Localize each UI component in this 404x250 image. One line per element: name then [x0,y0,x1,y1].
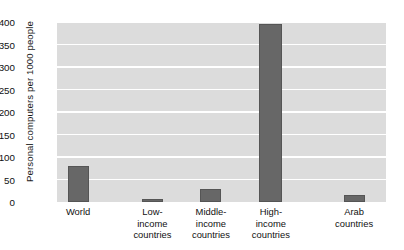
y-tick-label: 350 [0,39,15,50]
bar [142,199,163,202]
bar [344,195,365,202]
y-tick-label: 50 [0,174,15,185]
y-tick-label: 100 [0,152,15,163]
y-tick-label: 250 [0,84,15,95]
bar [200,189,221,203]
y-tick-label: 200 [0,107,15,118]
bar [68,166,89,202]
bar-chart: Personal computers per 1000 people 05010… [0,0,404,250]
y-tick-label: 400 [0,17,15,28]
x-tick-label: Arab countries [320,206,388,229]
y-tick-label: 0 [0,197,15,208]
plot-area [57,22,386,202]
bar-series [57,22,386,202]
x-tick-label: High- income countries [237,206,305,241]
x-tick-label: World [44,206,112,218]
y-axis-title: Personal computers per 1000 people [24,7,35,197]
y-tick-label: 150 [0,129,15,140]
y-tick-label: 300 [0,62,15,73]
bar [259,24,282,202]
x-tick-label: Middle- income countries [177,206,245,241]
